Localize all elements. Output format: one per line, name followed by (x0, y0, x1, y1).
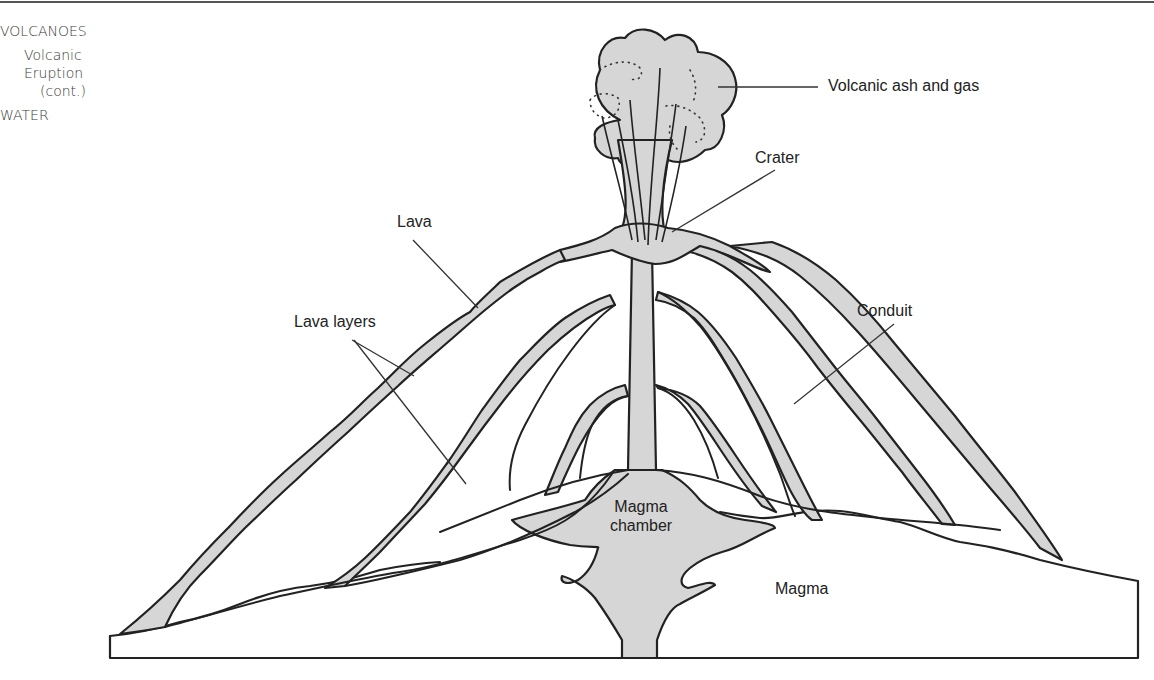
leader-lava (413, 240, 478, 308)
label-magma-chamber: Magma chamber (601, 497, 681, 535)
layer-line-left-1 (165, 474, 612, 627)
label-magma: Magma (775, 580, 828, 598)
leader-lava-layers-a (352, 340, 414, 376)
label-lava-layers: Lava layers (294, 313, 376, 331)
label-magma-chamber-line1: Magma (601, 497, 681, 516)
label-crater: Crater (755, 149, 799, 167)
volcano-diagram (0, 0, 1154, 680)
label-magma-chamber-line2: chamber (601, 516, 681, 535)
central-conduit (628, 250, 656, 470)
lava-flow-right-far (730, 242, 1062, 560)
label-lava: Lava (397, 213, 432, 231)
leader-crater (672, 170, 775, 232)
label-volcanic-ash-and-gas: Volcanic ash and gas (828, 77, 979, 95)
label-conduit: Conduit (857, 302, 912, 320)
